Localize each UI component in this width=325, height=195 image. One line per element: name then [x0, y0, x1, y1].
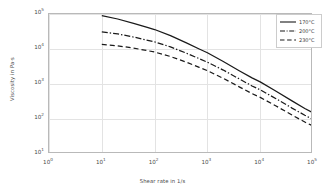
x-axis-title: Shear rate in 1/s — [0, 178, 325, 184]
y-tick-label: 101 — [18, 150, 44, 156]
legend-item-1: 200°C — [279, 26, 320, 35]
legend-line-solid-icon — [279, 18, 297, 26]
y-axis-title: Viscosity in Pa·s — [9, 39, 15, 119]
legend-label-1: 200°C — [299, 28, 315, 34]
y-tick-label: 105 — [18, 10, 44, 16]
x-tick-label: 102 — [141, 160, 167, 166]
x-tick-label: 101 — [88, 160, 114, 166]
data-curves — [49, 14, 312, 153]
y-tick-label: 103 — [18, 80, 44, 86]
legend-label-2: 230°C — [299, 37, 315, 43]
legend-line-dashdot-icon — [279, 27, 297, 35]
viscosity-shear-rate-chart: 101102103104105 100101102103104105 Shear… — [0, 0, 325, 195]
x-tick-label: 100 — [35, 160, 61, 166]
legend-item-0: 170°C — [279, 17, 320, 26]
legend-line-dashed-icon — [279, 36, 297, 44]
plot-area — [48, 13, 312, 153]
x-tick-label: 103 — [193, 160, 219, 166]
x-tick-label: 104 — [246, 160, 272, 166]
y-tick-label: 102 — [18, 115, 44, 121]
legend-item-2: 230°C — [279, 35, 320, 44]
y-tick-label: 104 — [18, 45, 44, 51]
x-tick-label: 105 — [299, 160, 325, 166]
legend-label-0: 170°C — [299, 19, 315, 25]
series-line-230°C — [102, 44, 312, 126]
legend: 170°C 200°C 230°C — [276, 14, 322, 48]
